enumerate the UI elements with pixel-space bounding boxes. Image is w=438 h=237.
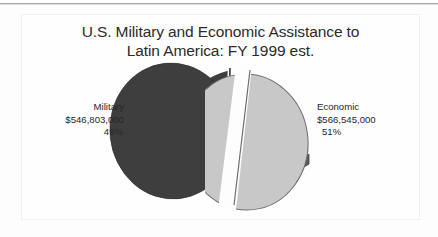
data-label-military-amount: $546,803,000 [14,114,124,127]
data-label-military-name: Military [14,101,124,114]
data-label-economic-name: Economic [317,101,427,114]
data-label-military-percent: 49% [14,126,124,139]
data-label-military: Military $546,803,000 49% [14,101,124,139]
data-label-economic: Economic $566,545,000 51% [317,101,427,139]
data-label-economic-amount: $566,545,000 [317,114,427,127]
data-label-economic-percent: 51% [317,126,427,139]
figure-container: U.S. Military and Economic Assistance to… [0,0,438,237]
